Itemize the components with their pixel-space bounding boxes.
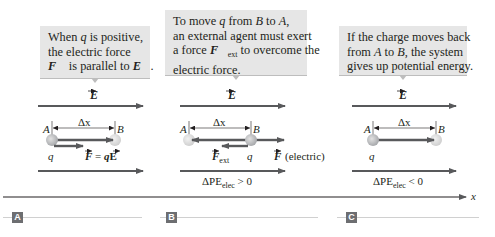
field-label-b: E xyxy=(227,88,236,102)
point-a-label-c: A xyxy=(363,123,371,135)
charge-q-a xyxy=(46,134,58,146)
charge-label-b: q xyxy=(247,150,253,162)
field-label-c: E xyxy=(398,88,407,102)
panel-a: E A B Δx q F = qE xyxy=(38,88,143,171)
charge-label-c: q xyxy=(369,150,375,162)
panel-b: E A B Δx Fext q F (electric) ΔPEelec > 0 xyxy=(179,88,325,190)
displacement-label-b: Δx xyxy=(213,116,226,128)
point-b-label: B xyxy=(117,123,124,135)
point-a-label-b: A xyxy=(179,123,187,135)
displacement-label-a: Δx xyxy=(78,116,91,128)
panel-b-rule xyxy=(160,217,318,218)
charge-q-c xyxy=(367,134,379,146)
point-b-label-b: B xyxy=(253,123,260,135)
charge-label-a: q xyxy=(48,150,54,162)
charge-q-b xyxy=(245,134,257,146)
force-electric-label: F xyxy=(273,150,282,162)
force-ext-label: Fext xyxy=(211,150,230,165)
diagram-canvas: E A B Δx q F = qE E A B Δx Fex xyxy=(0,0,495,237)
displacement-label-c: Δx xyxy=(398,116,411,128)
delta-pe-b: ΔPEelec > 0 xyxy=(202,175,253,190)
point-a-label: A xyxy=(42,123,50,135)
delta-pe-c: ΔPEelec < 0 xyxy=(373,175,424,190)
panel-c: E A B Δx q ΔPEelec < 0 xyxy=(352,88,456,190)
panel-a-rule xyxy=(3,217,142,218)
x-axis-label: x xyxy=(470,190,476,202)
panel-label-a: A xyxy=(12,212,23,223)
force-label-a: F = qE xyxy=(84,150,117,162)
field-label-a: E xyxy=(89,88,98,102)
force-electric-note: (electric) xyxy=(285,150,325,163)
panel-label-b: B xyxy=(166,212,177,223)
panel-label-c: C xyxy=(346,212,357,223)
point-b-label-c: B xyxy=(438,123,445,135)
panel-c-rule xyxy=(337,217,479,218)
